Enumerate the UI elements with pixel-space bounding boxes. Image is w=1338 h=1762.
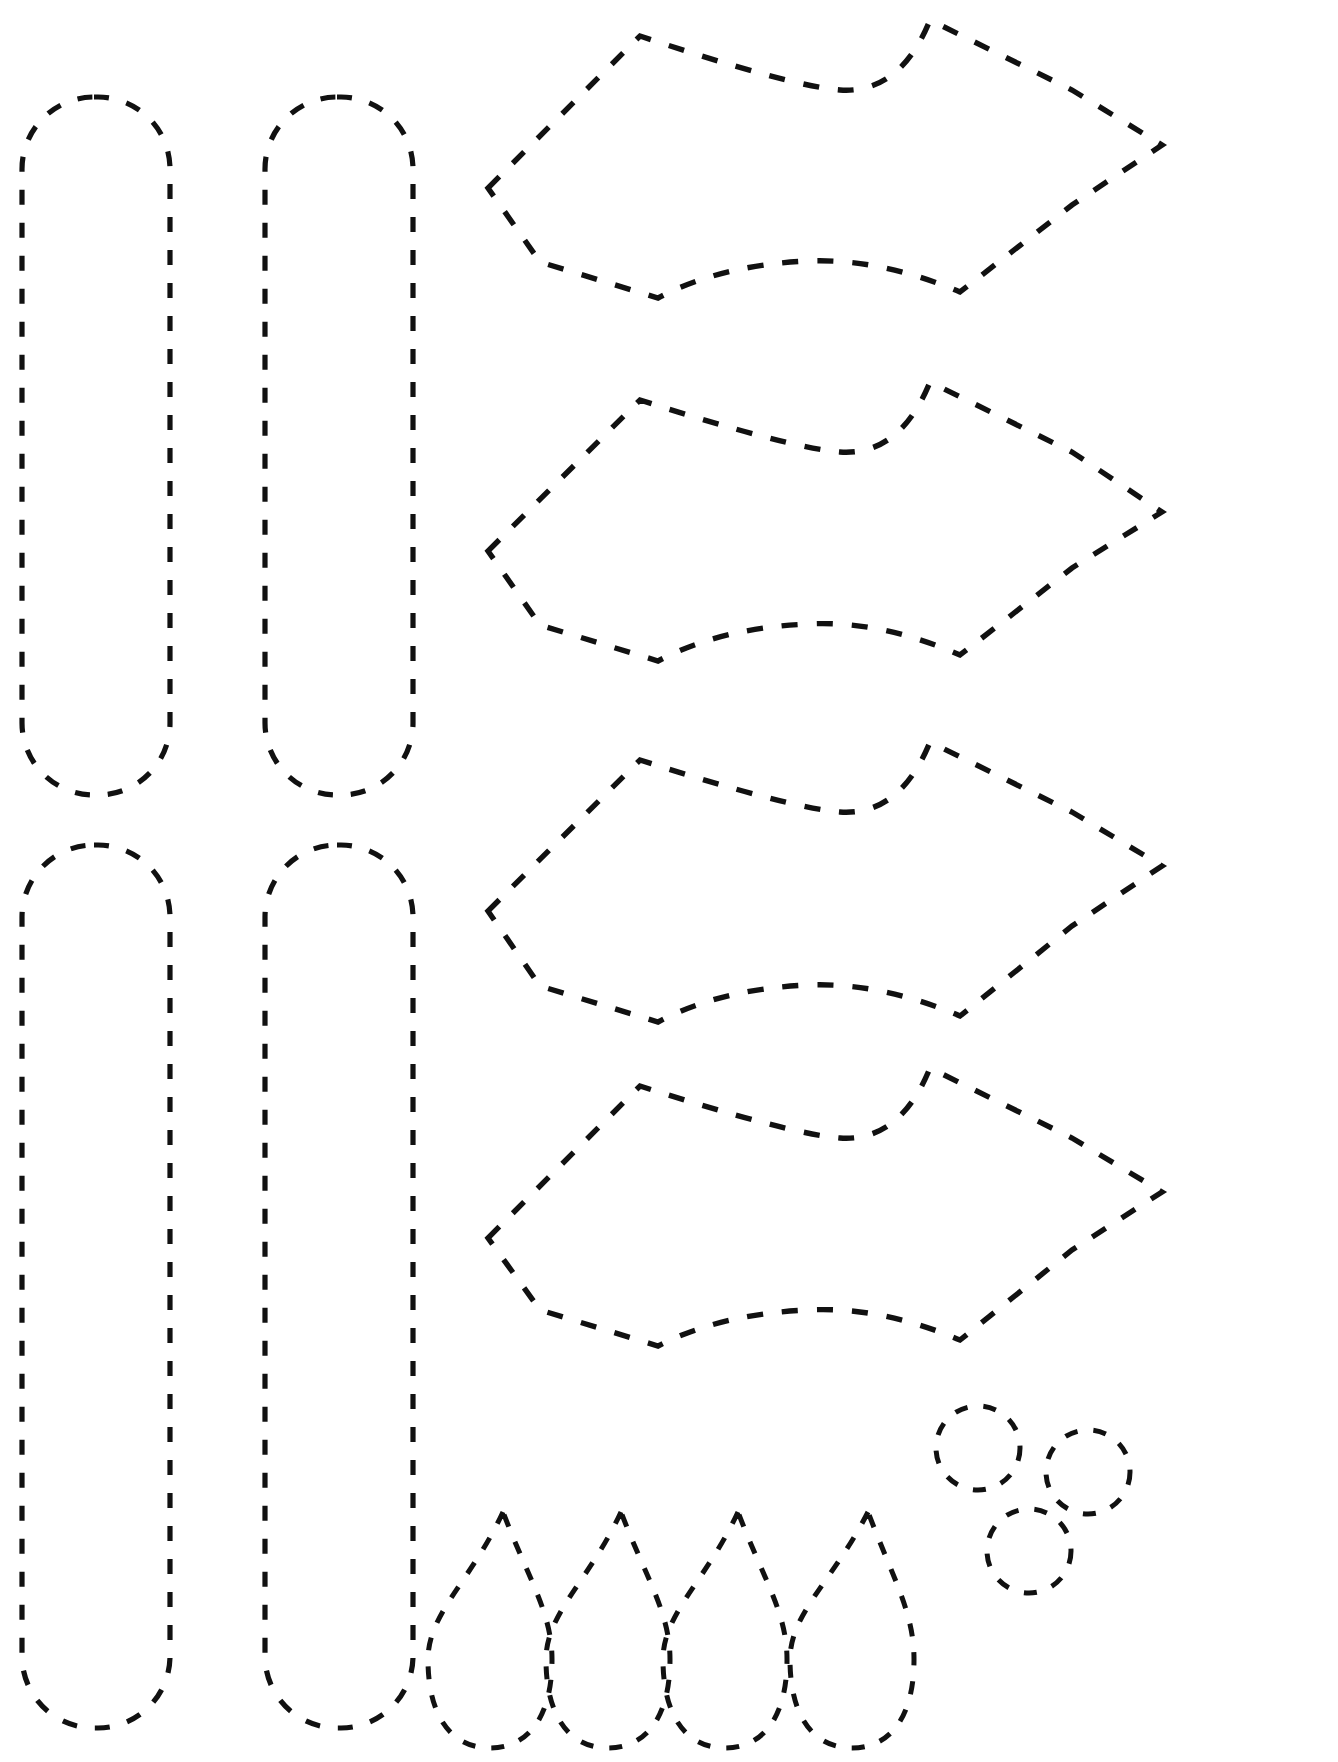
- pattern-canvas: [0, 0, 1338, 1762]
- sheet-background: [0, 0, 1338, 1762]
- pattern-sheet: [0, 0, 1338, 1762]
